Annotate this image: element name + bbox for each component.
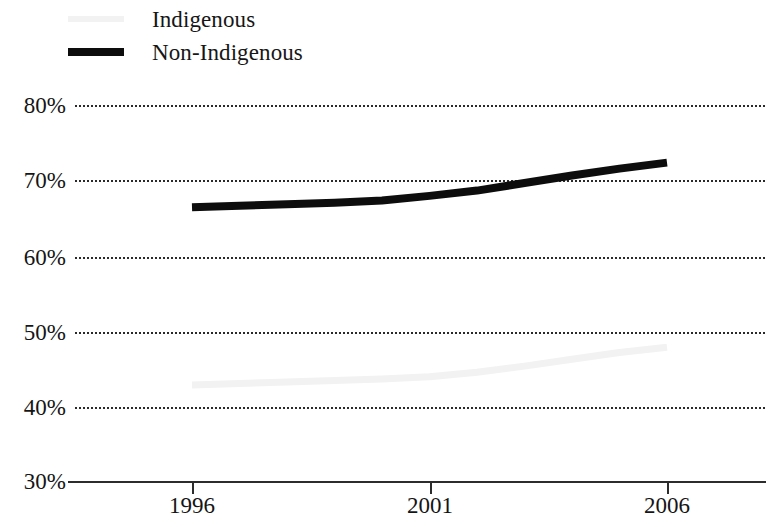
gridline-40	[75, 407, 765, 409]
gridline-60	[75, 257, 765, 259]
x-axis-line	[68, 481, 766, 483]
ytick-label-30: 30%	[4, 470, 66, 493]
ytick-label-70: 70%	[4, 169, 66, 192]
employment-rate-line-chart: Indigenous Non-Indigenous 80% 70% 60% 50…	[0, 0, 769, 527]
ytick-label-80: 80%	[4, 94, 66, 117]
gridline-70	[75, 180, 765, 182]
plot-area: 80% 70% 60% 50% 40% 30% 1996 2001 2006	[0, 0, 769, 527]
ytick-label-50: 50%	[4, 321, 66, 344]
gridline-80	[75, 105, 765, 107]
xtick-label-2006: 2006	[617, 494, 717, 517]
xtick-label-2001: 2001	[380, 494, 480, 517]
gridline-50	[75, 332, 765, 334]
ytick-label-40: 40%	[4, 396, 66, 419]
ytick-label-60: 60%	[4, 246, 66, 269]
xtick-label-1996: 1996	[142, 494, 242, 517]
